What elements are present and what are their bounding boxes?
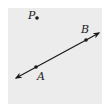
geometry-diagram: A B P — [0, 0, 109, 112]
point-p — [35, 16, 39, 20]
label-b: B — [80, 23, 89, 36]
label-a: A — [36, 70, 45, 83]
point-b — [84, 38, 88, 42]
label-p: P — [27, 9, 36, 22]
point-a — [34, 65, 38, 69]
